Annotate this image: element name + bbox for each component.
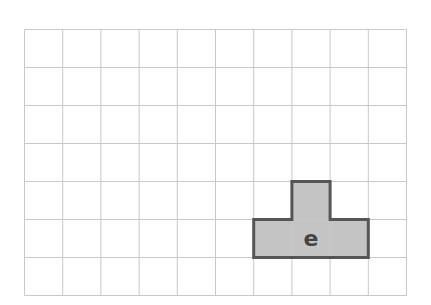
shape-cell [254, 220, 292, 258]
shape-cell [330, 220, 368, 258]
grid-lines [25, 30, 407, 296]
shape-label: e [304, 226, 319, 251]
grid-canvas: e [24, 29, 408, 297]
shape-cell [292, 182, 330, 220]
grid-diagram: e [24, 29, 408, 297]
